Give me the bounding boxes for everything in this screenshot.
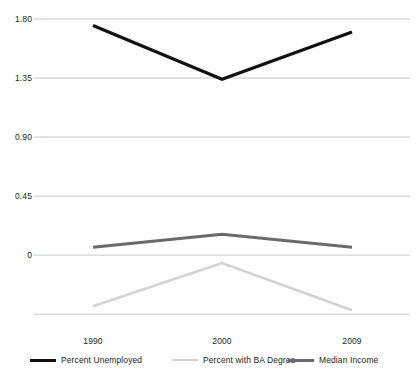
y-axis-tick: 1.35: [0, 73, 32, 83]
x-axis-tick-label: 2000: [212, 336, 231, 346]
y-axis-tick-label: 0.45: [0, 191, 32, 201]
gridlines: [34, 19, 410, 314]
series-line: [93, 26, 352, 80]
legend-label: Median Income: [319, 355, 378, 366]
line-chart: 1.801.350.900.450 199020002009 Percent U…: [0, 0, 416, 379]
y-axis-tick-label: 0.90: [0, 132, 32, 142]
x-axis-tick-label: 1990: [83, 336, 102, 346]
series-line: [93, 234, 352, 247]
legend-swatch-icon: [288, 359, 314, 362]
legend-item[interactable]: Percent with BA Degree: [172, 353, 295, 367]
legend-label: Percent with BA Degree: [203, 355, 295, 366]
y-axis-tick-label: 1.35: [0, 73, 32, 83]
y-axis-tick-label: 1.80: [0, 14, 32, 24]
legend-item[interactable]: Percent Unemployed: [30, 353, 142, 367]
legend-swatch-icon: [30, 359, 56, 362]
chart-plot-area: [0, 0, 416, 379]
y-axis-tick: 0.45: [0, 191, 32, 201]
y-axis-tick: 1.80: [0, 14, 32, 24]
data-series-group: [93, 26, 352, 311]
legend-swatch-icon: [172, 359, 198, 361]
legend-item[interactable]: Median Income: [288, 353, 378, 367]
y-axis-tick: 0: [0, 250, 32, 260]
legend-label: Percent Unemployed: [61, 355, 142, 366]
series-line: [93, 263, 352, 310]
y-axis-tick: 0.90: [0, 132, 32, 142]
y-axis-tick-label: 0: [0, 250, 32, 260]
chart-legend: Percent UnemployedPercent with BA Degree…: [0, 353, 416, 373]
x-axis-tick-label: 2009: [342, 336, 361, 346]
